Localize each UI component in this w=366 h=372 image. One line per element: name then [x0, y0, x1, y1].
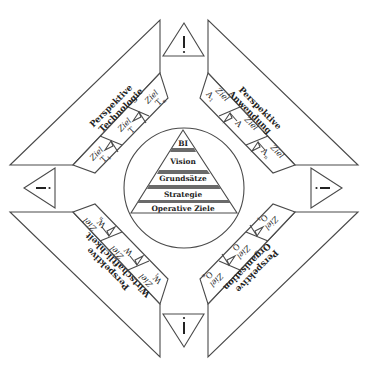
warning-triangle-right [311, 168, 342, 208]
warning-triangle-top [163, 23, 204, 56]
center-pyramid-group: BI Vision Grundsätze Strategie Operative… [124, 128, 244, 248]
warning-triangle-left [24, 168, 55, 208]
warning-triangle-bottom [163, 314, 204, 347]
pyramid-level-bi: BI [178, 139, 188, 148]
pyramid-level-operative-ziele: Operative Ziele [151, 204, 214, 213]
pyramid-level-strategie: Strategie [164, 190, 203, 199]
perspective-diagram: Perspektive Technologie Ziel T 1 Ziel T … [0, 0, 366, 372]
pyramid-level-grundsaetze: Grundsätze [159, 174, 207, 183]
pyramid-level-vision: Vision [169, 157, 196, 166]
